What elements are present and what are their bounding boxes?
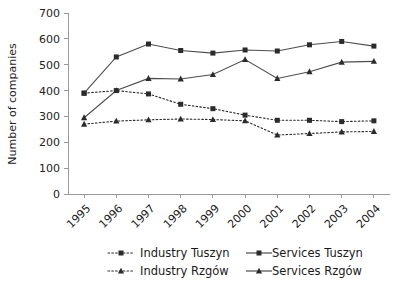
- legend-entry: Services Rzgów: [246, 264, 362, 278]
- x-tick-label: 1995: [64, 202, 93, 231]
- y-tick-label: 500: [39, 59, 60, 72]
- legend-entry: Industry Tuszyn: [108, 246, 230, 260]
- data-point-marker-square: [82, 91, 87, 96]
- y-tick-label: 400: [39, 85, 60, 98]
- x-tick-label: 2001: [257, 202, 286, 231]
- legend-label: Services Tuszyn: [272, 246, 363, 260]
- series-industry-tuszyn: [82, 88, 377, 124]
- data-point-marker-square: [146, 91, 151, 96]
- x-axis: 1995199619971998199920002001200220032004: [64, 194, 390, 231]
- chart-container: 0100200300400500600700 19951996199719981…: [0, 0, 399, 286]
- data-point-marker-square: [178, 102, 183, 107]
- series-industry-rzg-w: [81, 116, 377, 138]
- data-point-marker-triangle: [242, 56, 248, 62]
- legend-label: Industry Rzgów: [140, 264, 229, 278]
- data-point-marker-square: [339, 39, 344, 44]
- chart-series-group: [81, 39, 377, 138]
- data-point-marker-square: [114, 54, 119, 59]
- series-line: [84, 60, 374, 118]
- x-tick-label: 1996: [96, 202, 125, 231]
- x-tick-label: 2002: [290, 202, 319, 231]
- data-point-marker-square: [339, 119, 344, 124]
- data-point-marker-square: [243, 47, 248, 52]
- legend-label: Services Rzgów: [272, 264, 362, 278]
- data-point-marker-square: [371, 44, 376, 49]
- x-tick-label: 1997: [129, 202, 158, 231]
- data-point-marker-square: [210, 51, 215, 56]
- y-tick-label: 300: [39, 110, 60, 123]
- data-point-marker-square: [243, 113, 248, 118]
- line-chart: 0100200300400500600700 19951996199719981…: [0, 0, 399, 286]
- x-tick-label: 2000: [225, 202, 254, 231]
- y-tick-label: 600: [39, 33, 60, 46]
- series-line: [84, 119, 374, 135]
- legend-label: Industry Tuszyn: [140, 246, 230, 260]
- data-point-marker-square: [210, 106, 215, 111]
- data-point-marker-triangle: [306, 130, 312, 136]
- y-axis-title: Number of companies: [6, 43, 19, 165]
- x-tick-label: 1998: [161, 202, 190, 231]
- y-tick-label: 0: [53, 188, 60, 201]
- data-point-marker-square: [275, 118, 280, 123]
- data-point-marker-triangle: [81, 121, 87, 127]
- x-tick-label: 2003: [322, 202, 351, 231]
- x-tick-label: 1999: [193, 202, 222, 231]
- series-services-rzg-w: [81, 56, 377, 120]
- y-tick-label: 700: [39, 7, 60, 20]
- data-point-marker-square: [178, 48, 183, 53]
- data-point-marker-square: [371, 118, 376, 123]
- data-point-marker-square: [146, 42, 151, 47]
- data-point-marker-square: [275, 49, 280, 54]
- chart-legend: Industry TuszynServices TuszynIndustry R…: [108, 246, 363, 278]
- data-point-marker-square: [257, 251, 262, 256]
- data-point-marker-square: [119, 251, 124, 256]
- y-tick-label: 200: [39, 136, 60, 149]
- series-line: [84, 91, 374, 122]
- x-tick-label: 2004: [354, 202, 383, 231]
- y-tick-label: 100: [39, 162, 60, 175]
- legend-entry: Services Tuszyn: [246, 246, 363, 260]
- data-point-marker-triangle: [371, 128, 377, 134]
- data-point-marker-square: [307, 42, 312, 47]
- data-point-marker-triangle: [242, 117, 248, 123]
- data-point-marker-square: [307, 118, 312, 123]
- y-axis: 0100200300400500600700: [39, 7, 68, 201]
- legend-entry: Industry Rzgów: [108, 264, 229, 278]
